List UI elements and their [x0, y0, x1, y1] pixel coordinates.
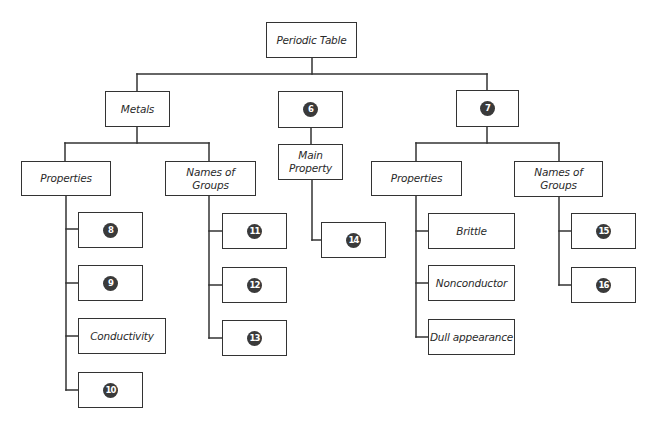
- number-badge: 7: [480, 101, 495, 116]
- node-label: Properties: [40, 172, 91, 185]
- number-badge: 6: [303, 102, 318, 117]
- node-label: Periodic Table: [276, 34, 346, 47]
- node-n16: 16: [571, 267, 636, 303]
- node-metals: Metals: [105, 91, 170, 127]
- number-badge: 8: [103, 223, 118, 238]
- node-label: Main Property: [289, 149, 332, 175]
- node-n11: 11: [222, 213, 287, 249]
- node-metals-properties: Properties: [21, 161, 111, 196]
- number-badge: 15: [596, 224, 611, 239]
- node-brittle: Brittle: [428, 213, 515, 249]
- number-badge: 11: [247, 224, 262, 239]
- node-n14: 14: [321, 222, 386, 258]
- number-badge: 13: [247, 331, 262, 346]
- node-n6: 6: [278, 91, 343, 128]
- node-main-property: Main Property: [278, 144, 343, 180]
- node-label: Dull appearance: [430, 331, 513, 344]
- node-label: Brittle: [456, 225, 487, 238]
- number-badge: 16: [596, 278, 611, 293]
- connector-lines: [0, 0, 650, 421]
- node-label: Names of Groups: [186, 166, 234, 192]
- node-label: Metals: [121, 103, 154, 116]
- node-n9: 9: [78, 265, 143, 301]
- node-metals-names-of-groups: Names of Groups: [165, 161, 256, 196]
- node-label: Names of Groups: [534, 166, 582, 192]
- node-n8: 8: [78, 212, 143, 248]
- node-n12: 12: [222, 267, 287, 303]
- node-n7: 7: [456, 90, 519, 127]
- number-badge: 9: [103, 276, 118, 291]
- number-badge: 10: [103, 383, 118, 398]
- node-n13: 13: [222, 320, 287, 356]
- node-conductivity: Conductivity: [78, 318, 166, 354]
- node-label: Conductivity: [90, 330, 154, 343]
- number-badge: 14: [346, 233, 361, 248]
- node-n10: 10: [78, 372, 143, 408]
- node-root: Periodic Table: [266, 22, 357, 58]
- node-n15: 15: [571, 213, 636, 249]
- node-nonconductor: Nonconductor: [428, 265, 515, 301]
- node-label: Nonconductor: [436, 277, 507, 290]
- node-dull-appearance: Dull appearance: [428, 319, 515, 355]
- node-n7-names-of-groups: Names of Groups: [514, 161, 603, 197]
- concept-map-canvas: Periodic TableMetals67PropertiesNames of…: [0, 0, 650, 421]
- node-label: Properties: [391, 172, 442, 185]
- node-n7-properties: Properties: [371, 161, 462, 196]
- number-badge: 12: [247, 278, 262, 293]
